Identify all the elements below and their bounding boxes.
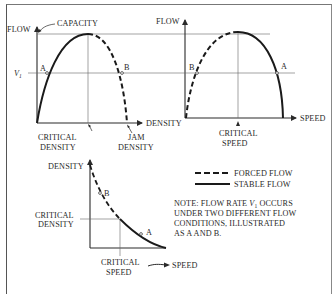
forced-flow-curve <box>88 34 127 123</box>
note-line-4: AS A AND B. <box>174 229 222 238</box>
critical-density-label-2: DENSITY <box>38 220 74 229</box>
critical-density-label-2: DENSITY <box>40 143 76 152</box>
point-a-label: A <box>40 64 46 73</box>
x-axis-label: DENSITY <box>146 119 182 128</box>
point-a-marker <box>276 72 279 75</box>
capacity-label: CAPACITY <box>57 19 98 28</box>
y-axis-label: FLOW <box>156 17 180 26</box>
point-b-label: B <box>104 189 110 198</box>
point-a-marker <box>46 72 49 75</box>
forced-flow-curve <box>186 32 238 118</box>
point-a-label: A <box>146 228 152 237</box>
y-axis-label: FLOW <box>7 25 31 34</box>
stable-flow-curve <box>37 34 88 123</box>
v1-label: V1 <box>14 69 22 79</box>
critical-speed-label-1: CRITICAL <box>219 129 258 138</box>
note-line-2: UNDER TWO DIFFERENT FLOW <box>174 209 297 218</box>
forced-flow-label: FORCED FLOW <box>234 169 293 178</box>
note: NOTE: FLOW RATE V1 OCCURS UNDER TWO DIFF… <box>174 199 297 238</box>
panel-flow-speed: FLOW B A SPEED CRITICAL SPEED <box>155 17 326 148</box>
point-b-marker <box>121 72 124 75</box>
stable-flow-label: STABLE FLOW <box>234 180 291 189</box>
point-b-marker <box>196 72 199 75</box>
note-line-1: NOTE: FLOW RATE V1 OCCURS <box>174 199 293 209</box>
point-a-marker <box>140 233 143 236</box>
point-b-marker <box>99 192 102 195</box>
point-b-label: B <box>189 63 195 72</box>
critical-density-label-1: CRITICAL <box>35 211 74 220</box>
stable-flow-curve <box>120 219 166 248</box>
jam-density-label-1: JAM <box>128 133 145 142</box>
legend: FORCED FLOW STABLE FLOW <box>195 169 293 189</box>
critical-speed-label-1: CRITICAL <box>101 258 140 267</box>
x-axis-label: SPEED <box>172 261 198 270</box>
jam-density-label-2: DENSITY <box>118 143 154 152</box>
y-axis-label: DENSITY <box>48 162 84 171</box>
x-axis-label: SPEED <box>300 114 326 123</box>
critical-speed-label-2: SPEED <box>106 268 132 277</box>
critical-speed-label-2: SPEED <box>222 139 248 148</box>
point-a-label: A <box>281 62 287 71</box>
capacity-pointer <box>39 24 55 32</box>
point-b-label: B <box>124 63 130 72</box>
note-line-3: CONDITIONS, ILLUSTRATED <box>174 219 285 228</box>
stable-flow-curve <box>238 32 283 118</box>
critical-density-label-1: CRITICAL <box>38 133 77 142</box>
